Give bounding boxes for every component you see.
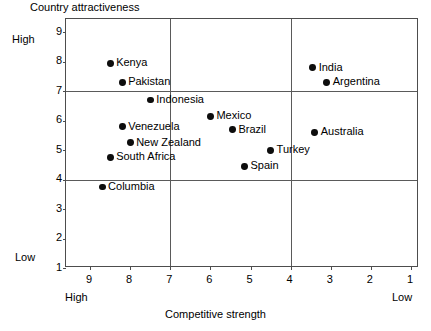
x-axis-low-label: Low (392, 291, 412, 303)
xtick-label-6: 6 (200, 274, 218, 285)
xtick-label-3: 3 (321, 274, 339, 285)
ytick-label-1: 1 (46, 262, 62, 273)
data-point-marker (107, 154, 114, 161)
xtick-label-8: 8 (120, 274, 138, 285)
data-point-marker (311, 129, 318, 136)
data-point-label: Argentina (333, 75, 380, 88)
data-point-marker (267, 147, 274, 154)
xtick-mark-2 (371, 266, 372, 270)
data-point-label: India (319, 61, 343, 74)
ytick-mark-6 (63, 121, 66, 122)
data-point-marker (119, 79, 126, 86)
data-point-marker (147, 97, 154, 104)
data-point-label: Spain (251, 159, 279, 172)
data-point-label: Australia (321, 125, 364, 138)
x-axis-title: Competitive strength (0, 308, 431, 321)
xtick-label-2: 2 (361, 274, 379, 285)
ytick-mark-8 (63, 62, 66, 63)
y-axis-low-label: Low (15, 251, 35, 263)
ytick-label-4: 4 (46, 173, 62, 184)
ytick-mark-2 (63, 239, 66, 240)
chart-canvas: Country attractiveness High Low 98765432… (0, 0, 431, 331)
data-point-marker (229, 126, 236, 133)
data-point-marker (323, 79, 330, 86)
ytick-mark-9 (63, 32, 66, 33)
ytick-mark-3 (63, 209, 66, 210)
xtick-mark-3 (331, 266, 332, 270)
data-point-label: Indonesia (156, 93, 204, 106)
y-axis-title: Country attractiveness (30, 1, 139, 14)
xtick-mark-1 (411, 266, 412, 270)
ytick-label-8: 8 (46, 55, 62, 66)
ytick-mark-4 (63, 180, 66, 181)
ytick-label-5: 5 (46, 144, 62, 155)
gridline-horizontal-7 (66, 91, 417, 92)
x-axis-high-label: High (65, 291, 88, 303)
xtick-mark-6 (210, 266, 211, 270)
xtick-label-4: 4 (281, 274, 299, 285)
xtick-mark-4 (291, 266, 292, 270)
data-point-label: New Zealand (136, 136, 201, 149)
data-point-marker (119, 123, 126, 130)
data-point-label: Columbia (108, 180, 154, 193)
ytick-label-2: 2 (46, 232, 62, 243)
data-point-marker (207, 113, 214, 120)
data-point-label: Pakistan (128, 75, 170, 88)
xtick-label-1: 1 (401, 274, 419, 285)
ytick-mark-7 (63, 91, 66, 92)
data-point-label: Kenya (116, 56, 147, 69)
data-point-label: South Africa (116, 150, 175, 163)
xtick-label-9: 9 (80, 274, 98, 285)
xtick-mark-9 (90, 266, 91, 270)
ytick-mark-1 (63, 268, 66, 269)
ytick-label-3: 3 (46, 203, 62, 214)
ytick-label-9: 9 (46, 26, 62, 37)
xtick-mark-5 (251, 266, 252, 270)
y-axis-high-label: High (12, 33, 35, 45)
ytick-label-6: 6 (46, 114, 62, 125)
xtick-mark-7 (170, 266, 171, 270)
data-point-marker (99, 184, 106, 191)
data-point-marker (127, 139, 134, 146)
data-point-label: Brazil (238, 123, 266, 136)
plot-area: KenyaPakistanIndonesiaVenezuelaNew Zeala… (65, 18, 418, 267)
ytick-label-7: 7 (46, 85, 62, 96)
xtick-mark-8 (130, 266, 131, 270)
data-point-marker (241, 163, 248, 170)
xtick-label-7: 7 (160, 274, 178, 285)
data-point-label: Turkey (277, 143, 310, 156)
data-point-label: Venezuela (128, 120, 179, 133)
data-point-marker (309, 64, 316, 71)
data-point-marker (107, 60, 114, 67)
ytick-mark-5 (63, 150, 66, 151)
xtick-label-5: 5 (241, 274, 259, 285)
data-point-label: Mexico (216, 109, 251, 122)
